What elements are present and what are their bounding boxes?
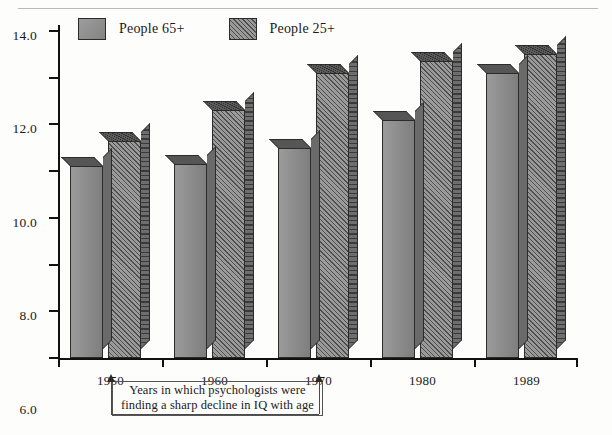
y-tick-label-10.0: 10.0 — [13, 215, 37, 231]
bar-top — [61, 157, 103, 166]
x-axis-line — [58, 358, 578, 360]
bar-side — [141, 123, 150, 349]
bar-face — [108, 141, 141, 358]
cut-off-caption-text — [22, 427, 592, 435]
bar-top — [411, 52, 453, 61]
bar-1980-people-25 — [420, 61, 453, 358]
bar-top — [203, 101, 245, 110]
bar-top — [165, 155, 207, 164]
x-tick-2 — [266, 358, 268, 367]
bar-1989-people-25 — [524, 54, 557, 358]
figure-canvas: People 65+ People 25+ 0.02.04.06.08.010.… — [0, 0, 612, 435]
y-tick-2.0: 2.0 — [49, 310, 60, 312]
bar-1970-people-65 — [278, 148, 311, 358]
bar-side — [415, 102, 424, 349]
bar-top — [515, 45, 557, 54]
x-tick-5 — [576, 358, 578, 367]
bar-1960-people-25 — [212, 110, 245, 358]
bar-side — [519, 55, 528, 349]
y-tick-label-14.0: 14.0 — [13, 28, 37, 44]
y-tick-8.0: 8.0 — [49, 170, 60, 172]
bar-side — [453, 43, 462, 349]
x-tick-3 — [370, 358, 372, 367]
annotation-leader-bracket — [111, 414, 319, 415]
bar-face — [316, 73, 349, 358]
annotation-leader-vertical-1950 — [111, 382, 112, 414]
bar-side — [557, 36, 566, 349]
x-tick-0 — [58, 358, 60, 367]
bar-face — [382, 120, 415, 358]
bar-face — [420, 61, 453, 358]
bar-1970-people-25 — [316, 73, 349, 358]
y-tick-10.0: 10.0 — [49, 123, 60, 125]
up-arrow-icon-1950 — [107, 374, 115, 382]
annotation-box: Years in which psychologists were findin… — [112, 381, 323, 416]
plot-area: 0.02.04.06.08.010.012.014.0 195019601970… — [58, 25, 578, 360]
bar-1980-people-65 — [382, 120, 415, 358]
bar-face — [278, 148, 311, 358]
bar-top — [99, 132, 141, 141]
y-tick-label-12.0: 12.0 — [13, 121, 37, 137]
bar-side — [103, 148, 112, 349]
x-tick-1 — [162, 358, 164, 367]
annotation-line-2: finding a sharp decline in IQ with age — [121, 398, 314, 413]
x-tick-label-1980: 1980 — [409, 373, 436, 389]
bar-top — [269, 139, 311, 148]
x-tick-label-1989: 1989 — [513, 373, 540, 389]
bar-side — [311, 130, 320, 349]
bar-top — [477, 64, 519, 73]
bar-side — [245, 92, 254, 349]
bar-face — [70, 166, 103, 358]
y-tick-14.0: 14.0 — [49, 30, 60, 32]
bar-top — [307, 64, 349, 73]
x-tick-4 — [474, 358, 476, 367]
bar-1950-people-25 — [108, 141, 141, 358]
bar-face — [524, 54, 557, 358]
bar-side — [207, 146, 216, 349]
y-tick-label-6.0: 6.0 — [20, 402, 37, 418]
annotation-line-1: Years in which psychologists were — [121, 383, 314, 398]
bar-1960-people-65 — [174, 164, 207, 358]
top-rule-divider — [18, 8, 598, 9]
y-tick-6.0: 6.0 — [49, 217, 60, 219]
y-tick-label-8.0: 8.0 — [20, 308, 37, 324]
bar-1989-people-65 — [486, 73, 519, 358]
bar-face — [174, 164, 207, 358]
up-arrow-icon-1970 — [315, 374, 323, 382]
bar-top — [373, 111, 415, 120]
bar-1950-people-65 — [70, 166, 103, 358]
bar-face — [212, 110, 245, 358]
y-tick-4.0: 4.0 — [49, 264, 60, 266]
annotation-leader-vertical-1970 — [319, 382, 320, 414]
bar-face — [486, 73, 519, 358]
bar-side — [349, 55, 358, 349]
y-tick-12.0: 12.0 — [49, 77, 60, 79]
